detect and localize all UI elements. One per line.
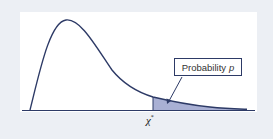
chi-star-label: χ* — [146, 114, 154, 126]
chi-superscript: * — [151, 114, 154, 120]
callout-text: Probability — [182, 62, 226, 73]
callout-arrow — [169, 77, 182, 101]
callout-variable: p — [229, 62, 234, 73]
probability-callout: Probability p — [174, 58, 242, 76]
